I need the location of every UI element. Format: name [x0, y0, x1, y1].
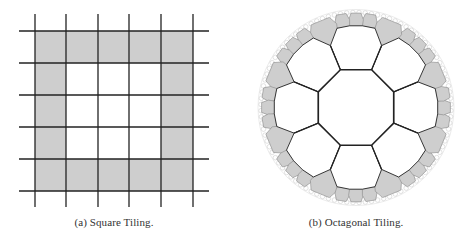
gray-tile-small — [349, 189, 364, 202]
shaded-cell — [66, 31, 98, 63]
shaded-cell — [98, 31, 129, 63]
caption-octagonal-tiling: (b) Octagonal Tiling. — [300, 216, 412, 228]
square-tiling-panel — [19, 14, 209, 207]
caption-square-tiling: (a) Square Tiling. — [66, 216, 162, 228]
shaded-cell — [35, 63, 66, 95]
shaded-cell — [66, 159, 98, 191]
shaded-cell — [161, 95, 193, 127]
gray-tile-small — [437, 100, 450, 115]
shaded-cell — [35, 31, 66, 63]
octagonal-tiling-panel — [258, 10, 454, 206]
gray-tile-small — [349, 13, 364, 26]
shaded-cell — [129, 159, 161, 191]
shaded-cell — [161, 31, 193, 63]
gray-tile-small — [262, 100, 275, 115]
figure — [0, 0, 467, 242]
shaded-cell — [35, 127, 66, 159]
shaded-cell — [161, 63, 193, 95]
shaded-cell — [129, 31, 161, 63]
central-octagon — [318, 70, 393, 145]
shaded-cell — [161, 159, 193, 191]
shaded-cell — [98, 159, 129, 191]
shaded-cell — [35, 95, 66, 127]
shaded-cell — [35, 159, 66, 191]
shaded-cell — [161, 127, 193, 159]
